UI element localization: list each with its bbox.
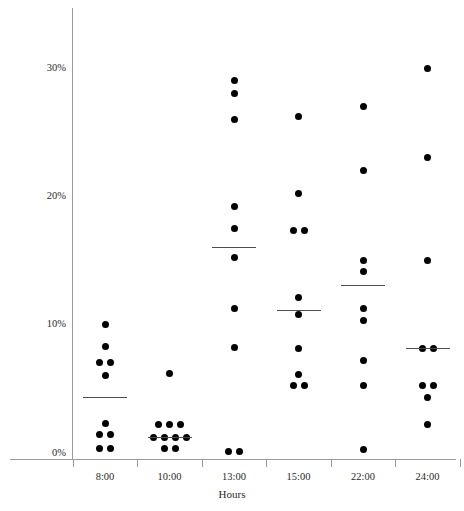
data-point <box>360 317 367 324</box>
x-axis-tick-label: 13:00 <box>202 470 266 483</box>
data-point <box>360 357 367 364</box>
data-point <box>172 445 179 452</box>
data-point <box>424 154 431 161</box>
data-point <box>295 190 302 197</box>
data-point <box>231 90 238 97</box>
mean-line <box>212 247 256 248</box>
x-axis-tick-mark <box>73 459 74 467</box>
data-point <box>96 445 103 452</box>
mean-line <box>341 285 385 286</box>
y-axis-tick: 0% <box>28 447 66 458</box>
x-axis-tick-label: 24:00 <box>396 470 460 483</box>
data-point <box>295 345 302 352</box>
data-point <box>231 305 238 312</box>
y-axis-tick-label: 30% <box>32 62 66 73</box>
data-point <box>231 77 238 84</box>
data-point <box>290 382 297 389</box>
y-axis-tick: 20% <box>28 190 66 201</box>
data-point <box>360 257 367 264</box>
data-point <box>301 382 308 389</box>
x-axis-tick-label: 8:00 <box>73 470 137 483</box>
x-axis-tick-mark <box>395 459 396 467</box>
y-axis-tick-label: 10% <box>32 318 66 329</box>
mean-line <box>83 397 127 398</box>
data-point <box>424 394 431 401</box>
data-point <box>161 445 168 452</box>
y-axis-tick: 10% <box>28 318 66 329</box>
x-axis-line <box>10 459 456 460</box>
data-point <box>430 382 437 389</box>
data-point <box>107 431 114 438</box>
data-point <box>102 321 109 328</box>
x-axis-tick-mark <box>460 459 461 467</box>
data-point <box>295 311 302 318</box>
x-axis-tick-mark <box>202 459 203 467</box>
data-point <box>360 103 367 110</box>
data-point <box>360 446 367 453</box>
x-axis-tick-mark <box>331 459 332 467</box>
data-point <box>231 116 238 123</box>
y-axis-tick-label: 20% <box>32 190 66 201</box>
data-point <box>424 421 431 428</box>
data-point <box>231 203 238 210</box>
data-point <box>295 294 302 301</box>
x-axis-tick-label: 22:00 <box>331 470 395 483</box>
data-point <box>225 448 232 455</box>
data-point <box>107 445 114 452</box>
data-point <box>231 344 238 351</box>
data-point <box>301 227 308 234</box>
data-point <box>107 359 114 366</box>
x-axis-tick-label: 15:00 <box>267 470 331 483</box>
data-point <box>155 421 162 428</box>
data-point <box>419 382 426 389</box>
data-point <box>236 448 243 455</box>
mean-line <box>277 310 321 311</box>
data-point <box>102 343 109 350</box>
data-point <box>424 257 431 264</box>
data-point <box>231 225 238 232</box>
data-point <box>166 370 173 377</box>
data-point <box>360 382 367 389</box>
data-point <box>166 421 173 428</box>
x-axis-title: Hours <box>0 488 464 500</box>
data-point <box>360 167 367 174</box>
data-point <box>424 65 431 72</box>
x-axis-tick-mark <box>266 459 267 467</box>
data-point <box>177 421 184 428</box>
dot-plot-chart: 0%10%20%30% 8:0010:0013:0015:0022:0024:0… <box>0 0 464 511</box>
data-point <box>360 268 367 275</box>
x-axis-tick-mark <box>137 459 138 467</box>
data-point <box>360 305 367 312</box>
data-point <box>102 372 109 379</box>
y-axis-tick-label: 0% <box>32 447 66 458</box>
data-point <box>290 227 297 234</box>
mean-line <box>406 348 450 349</box>
y-axis-line <box>72 8 73 460</box>
x-axis-tick-label: 10:00 <box>138 470 202 483</box>
data-point <box>96 431 103 438</box>
mean-line <box>148 437 192 438</box>
data-point <box>102 420 109 427</box>
data-point <box>295 371 302 378</box>
data-point <box>96 359 103 366</box>
data-point <box>295 113 302 120</box>
y-axis-tick: 30% <box>28 62 66 73</box>
data-point <box>231 254 238 261</box>
